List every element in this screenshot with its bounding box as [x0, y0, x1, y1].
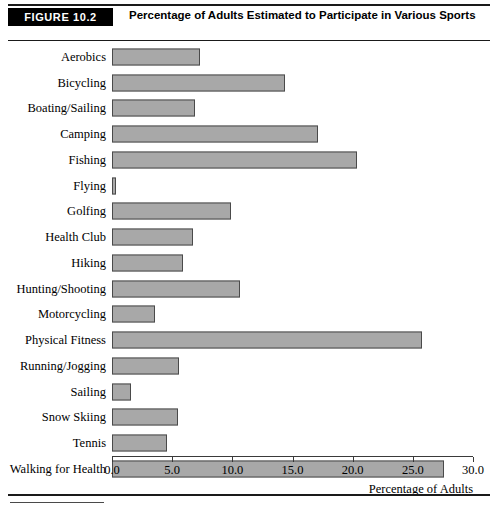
- bar: [112, 151, 357, 168]
- category-label: Fishing: [68, 152, 106, 167]
- bar: [112, 280, 240, 297]
- category-label: Snow Skiing: [42, 410, 106, 425]
- bar: [112, 74, 285, 91]
- chart-row: Health Club: [112, 224, 473, 250]
- figure-number-badge: FIGURE 10.2: [8, 8, 113, 26]
- footer-rule: [8, 494, 490, 496]
- bar-chart: AerobicsBicyclingBoating/SailingCampingF…: [0, 42, 498, 490]
- bar: [112, 229, 193, 246]
- category-label: Health Club: [45, 230, 106, 245]
- x-axis-tick-label: 20.0: [342, 463, 364, 478]
- category-label: Bicycling: [57, 75, 106, 90]
- bar: [112, 100, 195, 117]
- x-axis-tick-label: 30.0: [462, 463, 484, 478]
- x-axis-tick: [293, 457, 294, 462]
- category-label: Motorcycling: [38, 307, 106, 322]
- bar: [112, 435, 167, 452]
- chart-row: Hunting/Shooting: [112, 276, 473, 302]
- category-label: Hunting/Shooting: [16, 281, 106, 296]
- plot-area: AerobicsBicyclingBoating/SailingCampingF…: [112, 44, 473, 456]
- bar: [112, 409, 178, 426]
- category-label: Aerobics: [61, 49, 106, 64]
- category-label: Camping: [60, 127, 106, 142]
- chart-row: Tennis: [112, 430, 473, 456]
- category-label: Sailing: [71, 384, 106, 399]
- x-axis-tick-label: 0.0: [104, 463, 120, 478]
- header-top-rule: [8, 4, 490, 6]
- bar: [112, 126, 318, 143]
- x-axis-tick: [353, 457, 354, 462]
- chart-row: Snow Skiing: [112, 405, 473, 431]
- category-label: Walking for Health: [10, 461, 106, 476]
- chart-row: Golfing: [112, 199, 473, 225]
- chart-row: Camping: [112, 121, 473, 147]
- category-label: Hiking: [71, 255, 106, 270]
- bar: [112, 177, 116, 194]
- chart-row: Fishing: [112, 147, 473, 173]
- bar: [112, 383, 131, 400]
- header-bottom-rule: [8, 40, 490, 41]
- x-axis-tick-label: 5.0: [164, 463, 180, 478]
- bar: [112, 254, 183, 271]
- chart-row: Flying: [112, 173, 473, 199]
- chart-row: Running/Jogging: [112, 353, 473, 379]
- x-axis-tick-label: 10.0: [221, 463, 243, 478]
- chart-row: Sailing: [112, 379, 473, 405]
- figure-title: Percentage of Adults Estimated to Partic…: [129, 8, 489, 22]
- x-axis-tick: [232, 457, 233, 462]
- x-axis-tick: [473, 457, 474, 462]
- bar: [112, 357, 179, 374]
- category-label: Physical Fitness: [25, 333, 106, 348]
- category-label: Golfing: [67, 204, 106, 219]
- category-label: Flying: [73, 178, 106, 193]
- x-axis-tick-label: 15.0: [282, 463, 304, 478]
- bar: [112, 306, 155, 323]
- bar: [112, 332, 422, 349]
- category-label: Boating/Sailing: [28, 101, 106, 116]
- category-label: Tennis: [73, 436, 106, 451]
- footnote-rule: [10, 502, 104, 503]
- chart-row: Aerobics: [112, 44, 473, 70]
- figure-header: FIGURE 10.2 Percentage of Adults Estimat…: [8, 8, 490, 38]
- chart-row: Bicycling: [112, 70, 473, 96]
- bar: [112, 203, 231, 220]
- figure-page: FIGURE 10.2 Percentage of Adults Estimat…: [0, 0, 498, 508]
- chart-row: Physical Fitness: [112, 327, 473, 353]
- bar: [112, 48, 200, 65]
- chart-row: Motorcycling: [112, 302, 473, 328]
- x-axis-tick-label: 25.0: [402, 463, 424, 478]
- chart-row: Boating/Sailing: [112, 96, 473, 122]
- x-axis-tick: [413, 457, 414, 462]
- category-label: Running/Jogging: [20, 358, 106, 373]
- x-axis-tick: [112, 457, 113, 462]
- chart-row: Hiking: [112, 250, 473, 276]
- bar: [112, 460, 444, 477]
- x-axis-tick: [172, 457, 173, 462]
